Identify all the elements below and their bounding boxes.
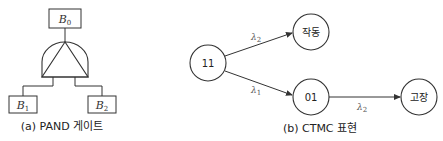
diagram-canvas: B0 B1 B2 (a) PAND 게이트	[0, 0, 443, 141]
svg-text:11: 11	[202, 58, 215, 69]
svg-text:고장: 고장	[410, 92, 428, 103]
input-event-box-2: B2	[88, 96, 116, 113]
state-node-01: 01	[293, 79, 329, 115]
pand-gate-icon	[42, 42, 88, 77]
edge-label: λ2	[356, 102, 367, 114]
top-event-label: B	[58, 13, 67, 26]
edge-label: λ1	[250, 85, 261, 97]
top-event-box: B0	[49, 9, 81, 28]
svg-text:01: 01	[305, 92, 318, 103]
input-event-label: B	[16, 99, 25, 112]
caption-a: (a) PAND 게이트	[21, 120, 103, 133]
connector-line	[23, 77, 53, 96]
edge-label: λ2	[250, 32, 261, 44]
state-node-operating: 작동	[293, 14, 329, 50]
caption-b: (b) CTMC 표현	[283, 122, 357, 135]
input-event-label: B	[95, 99, 104, 112]
pand-gate-figure: B0 B1 B2 (a) PAND 게이트	[9, 9, 116, 133]
state-node-11: 11	[190, 45, 226, 81]
connector-line	[75, 77, 102, 96]
svg-text:작동: 작동	[302, 27, 320, 38]
input-event-box-1: B1	[9, 96, 37, 113]
ctmc-figure: λ2 λ1 λ2 11 작동 01 고장 (b) CTMC 표현	[190, 14, 437, 135]
state-node-failed: 고장	[401, 79, 437, 115]
